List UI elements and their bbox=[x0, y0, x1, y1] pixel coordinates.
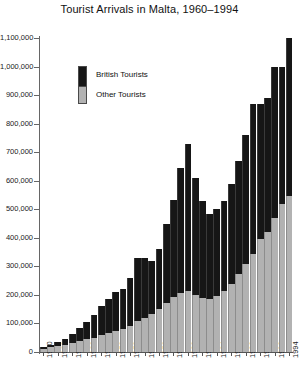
bar-segment-british-tourists bbox=[279, 67, 286, 204]
bar-segment-other-tourists bbox=[148, 314, 155, 352]
y-axis-tick-label: 1,000,000 bbox=[0, 63, 33, 71]
y-axis-tick-label: 200,000 bbox=[0, 291, 33, 299]
bar-column bbox=[62, 38, 69, 352]
bar-segment-other-tourists bbox=[279, 204, 286, 352]
x-axis-tick bbox=[116, 353, 117, 356]
bar-segment-british-tourists bbox=[242, 135, 249, 263]
bar-segment-other-tourists bbox=[127, 326, 134, 352]
bar-segment-british-tourists bbox=[76, 328, 83, 341]
y-axis-tick-label: 600,000 bbox=[0, 177, 33, 185]
bar-column bbox=[264, 38, 271, 352]
bar-segment-other-tourists bbox=[264, 232, 271, 352]
x-axis-tick bbox=[159, 353, 160, 356]
bar-segment-other-tourists bbox=[221, 291, 228, 352]
x-axis-tick bbox=[188, 353, 189, 356]
legend-label-british-tourists: British Tourists bbox=[96, 70, 148, 80]
bar-segment-british-tourists bbox=[235, 161, 242, 274]
bar-segment-british-tourists bbox=[228, 184, 235, 284]
bar-segment-other-tourists bbox=[235, 274, 242, 353]
bar-segment-british-tourists bbox=[69, 334, 76, 343]
bar-column bbox=[206, 38, 213, 352]
y-axis-tick-label: 0 bbox=[0, 348, 33, 356]
y-axis-tick-label: 1,100,000 bbox=[0, 34, 33, 42]
bar-segment-other-tourists bbox=[228, 284, 235, 353]
bar-segment-other-tourists bbox=[91, 338, 98, 352]
bar-segment-other-tourists bbox=[62, 345, 69, 352]
bar-segment-british-tourists bbox=[221, 201, 228, 291]
bar-segment-other-tourists bbox=[206, 299, 213, 352]
bar-segment-british-tourists bbox=[199, 201, 206, 298]
bar-column bbox=[242, 38, 249, 352]
bar-column bbox=[235, 38, 242, 352]
bar-segment-british-tourists bbox=[206, 214, 213, 300]
bar-column bbox=[40, 38, 47, 352]
bar-segment-british-tourists bbox=[91, 315, 98, 337]
legend-swatch-other-tourists bbox=[78, 86, 87, 104]
x-axis-tick bbox=[58, 353, 59, 356]
x-axis-tick bbox=[231, 353, 232, 356]
y-axis-tick bbox=[34, 352, 40, 353]
bar-segment-other-tourists bbox=[156, 309, 163, 352]
bar-segment-other-tourists bbox=[177, 293, 184, 352]
bar-column bbox=[54, 38, 61, 352]
x-axis-tick bbox=[145, 353, 146, 356]
bar-segment-other-tourists bbox=[250, 254, 257, 352]
y-axis-tick-label: 700,000 bbox=[0, 148, 33, 156]
x-axis-tick bbox=[173, 353, 174, 356]
bar-segment-british-tourists bbox=[271, 67, 278, 218]
y-axis-tick-label: 300,000 bbox=[0, 262, 33, 270]
chart-legend: British Tourists Other Tourists bbox=[78, 64, 198, 106]
bar-segment-other-tourists bbox=[286, 196, 293, 352]
bar-column bbox=[286, 38, 293, 352]
bar-column bbox=[250, 38, 257, 352]
y-axis-labels: 0100,000200,000300,000400,000500,000600,… bbox=[0, 0, 33, 385]
bar-segment-british-tourists bbox=[141, 258, 148, 318]
bar-segment-british-tourists bbox=[40, 347, 47, 349]
bar-column bbox=[271, 38, 278, 352]
bar-segment-british-tourists bbox=[170, 200, 177, 297]
bar-segment-other-tourists bbox=[54, 346, 61, 352]
x-axis-tick bbox=[101, 353, 102, 356]
bar-segment-british-tourists bbox=[185, 144, 192, 291]
bar-segment-british-tourists bbox=[105, 299, 112, 333]
bar-segment-british-tourists bbox=[83, 322, 90, 340]
bar-segment-other-tourists bbox=[199, 298, 206, 352]
bar-segment-other-tourists bbox=[141, 318, 148, 352]
bar-segment-other-tourists bbox=[40, 349, 47, 352]
bar-segment-british-tourists bbox=[156, 249, 163, 309]
bar-segment-british-tourists bbox=[286, 38, 293, 196]
x-axis-tick bbox=[275, 353, 276, 356]
bar-column bbox=[69, 38, 76, 352]
bar-segment-other-tourists bbox=[170, 297, 177, 352]
bar-segment-other-tourists bbox=[112, 331, 119, 352]
bar-segment-british-tourists bbox=[134, 258, 141, 321]
bar-segment-other-tourists bbox=[69, 343, 76, 352]
bar-segment-british-tourists bbox=[148, 261, 155, 315]
bar-segment-other-tourists bbox=[47, 347, 54, 352]
bar-segment-other-tourists bbox=[242, 264, 249, 352]
bar-column bbox=[47, 38, 54, 352]
y-axis-tick-label: 400,000 bbox=[0, 234, 33, 242]
bar-segment-other-tourists bbox=[83, 339, 90, 352]
bar-segment-british-tourists bbox=[54, 342, 61, 346]
x-axis-tick bbox=[87, 353, 88, 356]
x-axis-tick bbox=[202, 353, 203, 356]
x-axis-tick bbox=[72, 353, 73, 356]
bar-column bbox=[199, 38, 206, 352]
bar-segment-british-tourists bbox=[163, 224, 170, 304]
bar-segment-british-tourists bbox=[213, 209, 220, 296]
bar-segment-other-tourists bbox=[105, 333, 112, 352]
bar-segment-british-tourists bbox=[250, 104, 257, 254]
bar-segment-british-tourists bbox=[192, 178, 199, 295]
bar-segment-british-tourists bbox=[47, 345, 54, 348]
y-axis-tick-label: 900,000 bbox=[0, 91, 33, 99]
bar-segment-other-tourists bbox=[163, 303, 170, 352]
bar-segment-other-tourists bbox=[271, 218, 278, 352]
bar-column bbox=[213, 38, 220, 352]
x-axis-tick-label: 1994 bbox=[292, 341, 299, 358]
y-axis-tick-label: 500,000 bbox=[0, 205, 33, 213]
bar-segment-british-tourists bbox=[62, 339, 69, 345]
x-axis-tick bbox=[130, 353, 131, 356]
chart-title: Tourist Arrivals in Malta, 1960–1994 bbox=[0, 2, 299, 16]
bar-column bbox=[279, 38, 286, 352]
